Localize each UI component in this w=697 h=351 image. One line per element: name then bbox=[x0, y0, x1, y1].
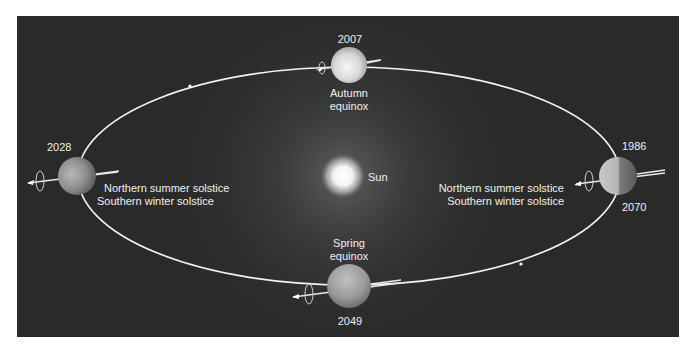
figure: 2007 Autumn equinox 2028 Northern summer… bbox=[0, 0, 697, 351]
year-label-left: 2028 bbox=[47, 141, 71, 154]
right-solstice-label: Northern summer solstice Southern winter… bbox=[430, 182, 564, 208]
label-line: Northern summer solstice bbox=[97, 182, 229, 195]
spring-equinox-label: Spring equinox bbox=[314, 237, 384, 263]
label-line: Southern winter solstice bbox=[97, 195, 229, 208]
year-label-right-bottom: 2070 bbox=[622, 201, 646, 214]
year-label-bottom: 2049 bbox=[334, 315, 366, 328]
sun-icon bbox=[321, 154, 365, 198]
orbit-direction-marker bbox=[188, 84, 191, 87]
year-label-top: 2007 bbox=[334, 33, 366, 46]
autumn-equinox-label: Autumn equinox bbox=[314, 87, 384, 113]
left-solstice-label: Northern summer solstice Southern winter… bbox=[97, 182, 229, 208]
sun-label: Sun bbox=[368, 171, 388, 184]
orbit-direction-marker bbox=[519, 262, 522, 265]
label-line: Southern winter solstice bbox=[430, 195, 564, 208]
label-line: Spring bbox=[314, 237, 384, 250]
orbit-diagram-graphic bbox=[0, 0, 697, 351]
year-label-right-top: 1986 bbox=[622, 140, 646, 153]
label-line: Autumn bbox=[314, 87, 384, 100]
label-line: equinox bbox=[314, 250, 384, 263]
label-line: Northern summer solstice bbox=[430, 182, 564, 195]
label-line: equinox bbox=[314, 100, 384, 113]
